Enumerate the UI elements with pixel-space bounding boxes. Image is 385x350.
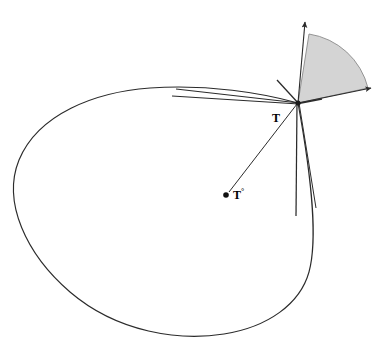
convex-body-boundary-curve [14, 87, 314, 336]
tangent-point-marker [295, 100, 300, 105]
ray-secant-line-left [172, 96, 299, 104]
normal-cone-sector [298, 34, 368, 103]
tangent-point-label: T [272, 112, 280, 124]
interior-point-label-superscript: ° [241, 187, 244, 196]
figure-canvas: T T° [0, 0, 385, 350]
interior-point-marker [223, 192, 229, 198]
diagram-svg [0, 0, 385, 350]
ray-lower-ray-near-vertical [296, 103, 297, 216]
interior-point-label-base: T [233, 188, 241, 202]
segment-to-interior-point [229, 104, 297, 192]
interior-point-label: T° [233, 188, 244, 201]
ray-lower-ray-slanted [299, 103, 316, 208]
